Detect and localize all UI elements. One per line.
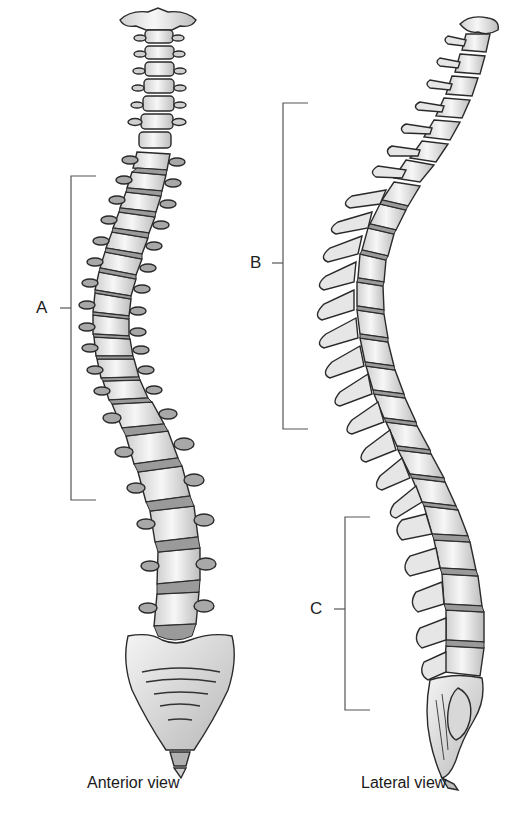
region-label-a: A — [36, 299, 47, 316]
anterior-spine — [79, 8, 234, 778]
bracket-a — [60, 176, 96, 500]
region-label-c: C — [310, 600, 322, 617]
lateral-view-caption: Lateral view — [361, 775, 446, 791]
bracket-c — [334, 517, 370, 710]
spine-figure: A B C Anterior view Lateral view — [0, 0, 522, 822]
region-label-b: B — [250, 254, 261, 271]
bracket-b — [272, 103, 308, 429]
spine-illustration — [0, 0, 522, 822]
anterior-view-caption: Anterior view — [87, 775, 179, 791]
